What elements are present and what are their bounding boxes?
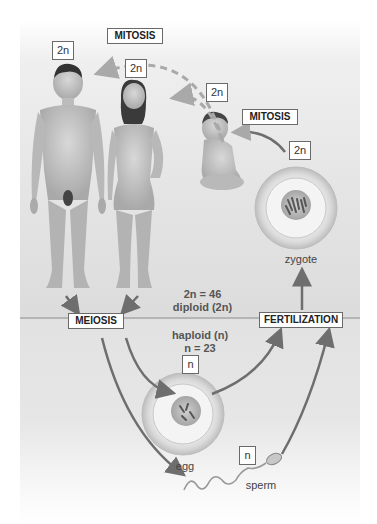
mitosis-arrow-zygote-to-baby bbox=[238, 132, 285, 152]
diploid-count: 2n = 46 bbox=[150, 288, 255, 301]
diploid-label: diploid (2n) bbox=[150, 301, 255, 314]
man-figure bbox=[30, 64, 106, 288]
arrow-man-to-meiosis bbox=[66, 296, 76, 310]
mitosis-label-top: MITOSIS bbox=[107, 28, 163, 44]
egg-caption: egg bbox=[168, 460, 202, 472]
haploid-count: n = 23 bbox=[150, 342, 250, 355]
sperm-caption: sperm bbox=[236, 479, 286, 491]
baby-figure bbox=[200, 112, 244, 190]
ploidy-box-baby: 2n bbox=[206, 83, 228, 102]
woman-figure bbox=[108, 80, 164, 288]
haploid-annotation: haploid (n) n = 23 bbox=[150, 329, 250, 355]
fertilization-label: FERTILIZATION bbox=[259, 312, 343, 328]
diploid-annotation: 2n = 46 diploid (2n) bbox=[150, 288, 255, 314]
ploidy-box-zygote: 2n bbox=[289, 141, 311, 160]
arrow-sperm-to-fertilization bbox=[282, 334, 328, 454]
arrow-woman-to-meiosis bbox=[125, 296, 138, 310]
haploid-label: haploid (n) bbox=[150, 329, 250, 342]
mitosis-label-right: MITOSIS bbox=[242, 109, 298, 125]
ploidy-box-sperm: n bbox=[239, 446, 256, 465]
zygote-cell bbox=[255, 167, 337, 249]
ploidy-box-woman: 2n bbox=[125, 59, 147, 78]
meiosis-label: MEIOSIS bbox=[68, 313, 124, 329]
zygote-caption: zygote bbox=[276, 253, 326, 265]
ploidy-box-man: 2n bbox=[52, 41, 74, 60]
ploidy-box-egg: n bbox=[182, 355, 199, 374]
